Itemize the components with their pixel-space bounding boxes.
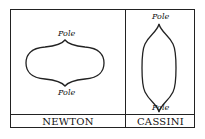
cassini-bottom-pole-label: Pole xyxy=(152,103,169,112)
earth-shapes xyxy=(0,0,205,139)
cassini-prolate-shape xyxy=(142,24,176,112)
newton-oblate-shape xyxy=(26,40,104,86)
cassini-top-pole-label: Pole xyxy=(152,12,169,21)
newton-top-pole-label: Pole xyxy=(58,29,75,38)
newton-bottom-pole-label: Pole xyxy=(58,88,75,97)
